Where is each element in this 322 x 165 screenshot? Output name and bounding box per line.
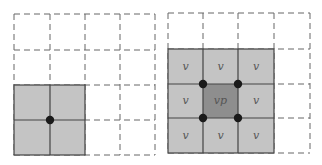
- right-panel: v v v v vp v v v v: [168, 13, 310, 153]
- cell-label: v: [182, 129, 189, 142]
- cell-label: v: [182, 94, 189, 107]
- cell-label: v: [253, 60, 260, 73]
- cell-label: v: [217, 60, 224, 73]
- cell-label: v: [253, 129, 260, 142]
- vertex-dot: [199, 80, 207, 88]
- diagram-canvas: v v v v vp v v v v: [0, 0, 322, 165]
- vertex-dot: [234, 80, 242, 88]
- left-vertex-dot: [46, 116, 54, 124]
- cell-label: v: [182, 60, 189, 73]
- left-panel: [14, 14, 155, 155]
- vertex-dot: [234, 114, 242, 122]
- cell-label: v: [253, 94, 260, 107]
- cell-label: v: [217, 129, 224, 142]
- cell-label-center: vp: [214, 94, 227, 107]
- vertex-dot: [199, 114, 207, 122]
